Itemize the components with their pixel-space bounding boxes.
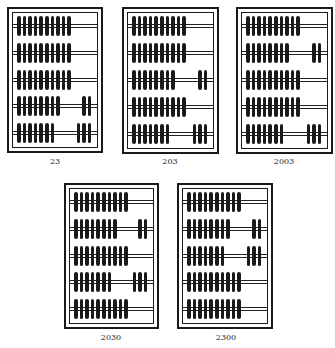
bead — [51, 43, 55, 63]
bead — [108, 246, 112, 266]
bead — [215, 192, 219, 212]
bead — [160, 16, 164, 36]
abacus-rod-row — [128, 97, 213, 117]
bead — [23, 96, 27, 116]
bead — [74, 219, 78, 239]
bead — [193, 299, 197, 319]
bead — [91, 299, 95, 319]
bead — [149, 16, 153, 36]
bead — [221, 192, 225, 212]
bead — [177, 97, 181, 117]
bead — [204, 219, 208, 239]
abacus-rod-row — [128, 43, 213, 63]
bead — [232, 272, 236, 292]
abacus-inner-frame — [241, 12, 328, 149]
bead — [221, 246, 225, 266]
bead — [209, 299, 213, 319]
bead — [138, 70, 142, 90]
bead — [237, 272, 241, 292]
bead — [209, 272, 213, 292]
bead — [280, 97, 284, 117]
bead — [62, 16, 66, 36]
bead — [209, 246, 213, 266]
bead — [252, 70, 256, 90]
bead — [28, 43, 32, 63]
bead — [108, 192, 112, 212]
bead — [23, 70, 27, 90]
abacus-rod-row — [242, 16, 327, 36]
bead — [166, 70, 170, 90]
bead — [166, 16, 170, 36]
bead — [28, 70, 32, 90]
bead — [177, 16, 181, 36]
abacus-value-label: 2030 — [101, 333, 121, 342]
abacus-2030 — [64, 183, 159, 329]
bead — [80, 219, 84, 239]
bead — [119, 299, 123, 319]
bead — [193, 192, 197, 212]
bead — [246, 16, 250, 36]
bead — [88, 96, 92, 116]
bead — [246, 124, 250, 144]
bead — [221, 299, 225, 319]
bead — [39, 43, 43, 63]
bead — [108, 299, 112, 319]
bead — [204, 272, 208, 292]
bead — [39, 96, 43, 116]
bead — [34, 123, 38, 143]
bead — [91, 192, 95, 212]
bead — [296, 16, 300, 36]
abacus-rod-row — [183, 246, 267, 266]
bead — [28, 96, 32, 116]
bead — [138, 124, 142, 144]
bead — [132, 97, 136, 117]
bead — [62, 43, 66, 63]
abacus-rod-row — [70, 219, 153, 239]
bead — [149, 124, 153, 144]
bead — [246, 70, 250, 90]
bead — [274, 97, 278, 117]
bead — [182, 43, 186, 63]
bead — [113, 246, 117, 266]
bead — [143, 124, 147, 144]
bead — [138, 43, 142, 63]
bead — [160, 43, 164, 63]
bead — [280, 124, 284, 144]
bead — [166, 124, 170, 144]
bead — [280, 70, 284, 90]
bead — [182, 16, 186, 36]
bead — [204, 124, 208, 144]
bead — [193, 246, 197, 266]
bead — [102, 219, 106, 239]
abacus-rod-row — [242, 70, 327, 90]
bead — [285, 43, 289, 63]
bead — [138, 16, 142, 36]
bead — [124, 246, 128, 266]
bead — [96, 246, 100, 266]
bead — [85, 192, 89, 212]
bead — [17, 16, 21, 36]
bead — [232, 299, 236, 319]
bead — [34, 96, 38, 116]
bead — [226, 299, 230, 319]
bead — [39, 70, 43, 90]
bead — [102, 299, 106, 319]
abacus-rod-row — [242, 124, 327, 144]
bead — [91, 272, 95, 292]
abacus-rod-row — [183, 192, 267, 212]
bead — [257, 16, 261, 36]
bead — [312, 124, 316, 144]
abacus-23 — [7, 7, 103, 153]
abacus-inner-frame — [127, 12, 214, 149]
bead — [28, 123, 32, 143]
bead — [143, 43, 147, 63]
bead — [113, 192, 117, 212]
bead — [143, 97, 147, 117]
abacus-rod-row — [13, 123, 97, 143]
bead — [113, 219, 117, 239]
bead — [108, 219, 112, 239]
bead — [51, 16, 55, 36]
bead — [85, 246, 89, 266]
abacus-inner-frame — [182, 188, 268, 324]
bead — [56, 43, 60, 63]
